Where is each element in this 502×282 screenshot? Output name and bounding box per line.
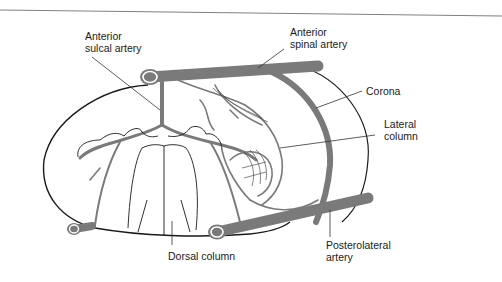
label-lateral-column-line2: column [384,130,418,142]
posterolateral-artery-vessel [208,198,368,240]
label-lateral-column: Lateral column [384,118,418,142]
gray-matter-outline [78,126,222,236]
label-lateral-column-line1: Lateral [384,118,418,130]
label-anterior-sulcal-artery-line2: sulcal artery [85,42,142,54]
label-posterolateral-artery-line2: artery [326,251,391,263]
spinal-cord-blood-supply-diagram [0,0,502,282]
label-anterior-spinal-artery-line1: Anterior [290,26,347,38]
cord-cross-section-outline [44,85,290,236]
label-anterior-spinal-artery-line2: spinal artery [290,38,347,50]
label-dorsal-column-line1: Dorsal column [168,250,235,262]
label-anterior-sulcal-artery-line1: Anterior [85,30,142,42]
label-anterior-spinal-artery: Anterior spinal artery [290,26,347,50]
posterolateral-artery-left-vessel [67,223,92,235]
corona-vessel [272,72,330,222]
top-rule [0,10,502,16]
penetrating-branches [90,80,318,210]
label-posterolateral-artery: Posterolateral artery [326,239,391,263]
label-dorsal-column: Dorsal column [168,250,235,262]
label-anterior-sulcal-artery: Anterior sulcal artery [85,30,142,54]
label-posterolateral-artery-line1: Posterolateral [326,239,391,251]
label-corona: Corona [366,85,400,97]
label-corona-line1: Corona [366,85,400,97]
leader-corona [316,91,362,108]
